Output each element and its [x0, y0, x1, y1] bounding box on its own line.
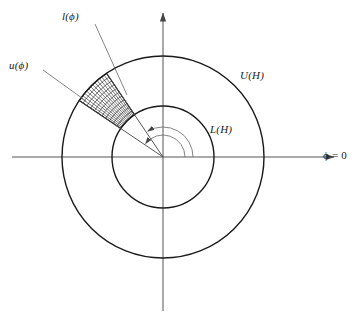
- label-inner-circle-LH: L(H): [210, 124, 232, 135]
- axes-group: [12, 13, 334, 311]
- diagram-svg: [0, 0, 356, 313]
- angle-arc-lower: [148, 127, 193, 157]
- figure-canvas: l(ϕ) u(ϕ) U(H) L(H) ϕ = 0: [0, 0, 356, 313]
- sector-ray-lower: [107, 74, 163, 157]
- label-u-phi: u(ϕ): [9, 60, 28, 71]
- sector-ray-upper: [80, 101, 163, 157]
- label-outer-circle-UH: U(H): [240, 70, 264, 81]
- leader-u-phi: [43, 70, 86, 101]
- label-axis-reference: ϕ = 0: [323, 150, 347, 161]
- label-l-phi: l(ϕ): [62, 11, 79, 22]
- sector-outline: [79, 73, 134, 128]
- angle-arc-upper: [145, 135, 185, 157]
- sector-rays: [80, 74, 163, 157]
